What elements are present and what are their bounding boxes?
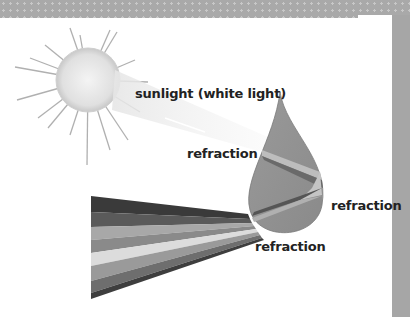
- spectrum-fan: [91, 196, 264, 299]
- sunlight-beam: [112, 70, 270, 152]
- refraction-exit-label: refraction: [255, 239, 326, 254]
- refraction-entry-label: refraction: [187, 146, 258, 161]
- sunlight-label: sunlight (white light): [135, 86, 286, 101]
- raindrop-icon: [249, 92, 323, 233]
- refraction-back-label: refraction: [331, 198, 402, 213]
